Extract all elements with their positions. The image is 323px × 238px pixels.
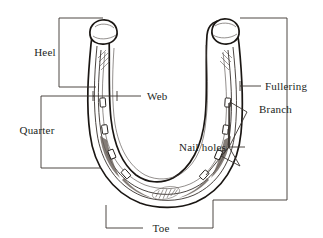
label-quarter: Quarter bbox=[20, 124, 55, 136]
diagram-canvas: Heel Web Quarter Fullering Branch bbox=[0, 0, 323, 238]
label-web: Web bbox=[147, 90, 168, 102]
nail-hole bbox=[101, 125, 108, 135]
horseshoe-illustration bbox=[88, 19, 243, 208]
label-heel: Heel bbox=[34, 46, 56, 58]
horseshoe-diagram-figure: Heel Web Quarter Fullering Branch bbox=[0, 0, 323, 238]
horseshoe-outer-outline bbox=[88, 21, 243, 208]
label-fullering: Fullering bbox=[265, 80, 307, 92]
fullering-callout-leader bbox=[240, 81, 261, 91]
heel-cap-right bbox=[212, 19, 239, 44]
heel-cap-left bbox=[90, 20, 117, 44]
nail-hole bbox=[100, 98, 106, 107]
label-branch: Branch bbox=[259, 103, 292, 115]
label-nail-holes: Nail holes bbox=[179, 141, 226, 153]
label-toe: Toe bbox=[153, 222, 170, 234]
